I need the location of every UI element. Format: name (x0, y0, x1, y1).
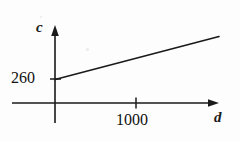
scan-speck (40, 16, 42, 18)
x-tick-label-1000: 1000 (116, 112, 148, 128)
data-line (55, 37, 219, 80)
x-axis-arrowhead (208, 99, 219, 107)
y-tick-label-260: 260 (11, 70, 35, 86)
line-graph-figure: c d 260 1000 (0, 0, 240, 141)
c-axis-label: c (36, 20, 43, 35)
scan-speck (86, 48, 89, 51)
y-axis-arrowhead (51, 25, 59, 36)
scan-speck (118, 60, 120, 62)
d-axis-label: d (214, 110, 222, 125)
